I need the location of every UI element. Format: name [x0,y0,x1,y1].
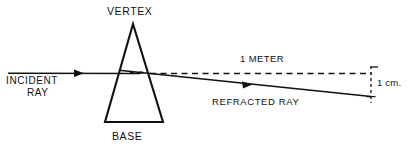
prism-refraction-diagram: VERTEX BASE INCIDENT RAY 1 METER REFRACT… [0,0,414,156]
arrowhead-icon-refracted [242,81,253,88]
incident-ray-label-line1: INCIDENT [6,76,58,87]
arrowhead-icon-incident [74,70,84,77]
deviation-label: 1 cm. [377,78,401,88]
base-label: BASE [112,131,142,142]
diagram-canvas [0,0,414,156]
refracted-ray-label: REFRACTED RAY [212,97,299,107]
distance-label: 1 METER [240,54,284,64]
vertex-label: VERTEX [107,6,152,17]
incident-ray-label-line2: RAY [27,88,49,99]
